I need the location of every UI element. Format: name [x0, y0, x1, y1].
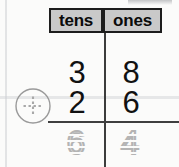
place-value-divider — [104, 33, 106, 167]
addend-1-ones-digit: 8 — [116, 57, 146, 88]
addition-worksheet-problem: tens ones 3 8 2 6 6 4 — [0, 0, 179, 167]
sum-tens-trace-digit[interactable]: 6 — [60, 126, 92, 159]
scan-artifact-smudge — [128, 0, 172, 5]
column-header-ones: ones — [103, 8, 162, 33]
addend-2-tens-digit: 2 — [62, 87, 92, 118]
addend-1-tens-digit: 3 — [62, 57, 92, 88]
addend-2-ones-digit: 6 — [116, 87, 146, 118]
column-header-tens: tens — [49, 8, 103, 33]
place-value-header-row: tens ones — [49, 8, 162, 33]
sum-horizontal-rule — [48, 121, 179, 123]
sum-ones-trace-digit[interactable]: 4 — [114, 126, 146, 159]
scan-artifact-line — [5, 0, 7, 167]
plus-in-circle-icon — [14, 87, 52, 125]
